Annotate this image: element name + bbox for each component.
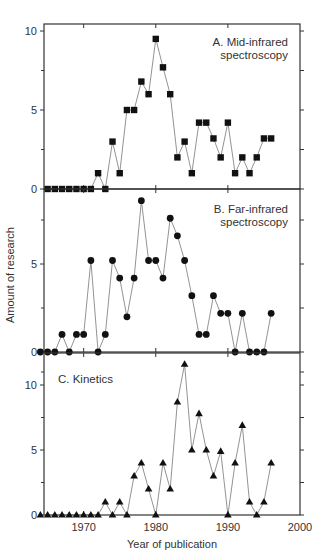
data-point-circle (188, 292, 195, 299)
data-point-square (239, 154, 245, 160)
panel-title: spectroscopy (220, 49, 288, 61)
panel-title: A. Mid-infrared (213, 36, 288, 48)
data-point-circle (124, 313, 131, 320)
data-point-circle (80, 331, 87, 338)
data-point-circle (224, 310, 231, 317)
data-point-circle (66, 349, 73, 356)
data-point-square (217, 154, 223, 160)
data-point-circle (232, 349, 239, 356)
data-point-square (196, 119, 202, 125)
data-point-triangle (231, 459, 239, 466)
x-tick-label: 1970 (71, 521, 95, 533)
data-point-circle (131, 275, 138, 282)
series-line (48, 39, 272, 189)
data-point-circle (196, 331, 203, 338)
data-point-triangle (181, 360, 189, 367)
data-point-square (210, 135, 216, 141)
data-point-triangle (224, 511, 232, 518)
data-point-triangle (145, 485, 153, 492)
data-point-square (160, 64, 166, 70)
data-point-circle (37, 349, 44, 356)
data-point-triangle (101, 498, 109, 505)
x-tick-label: 1990 (216, 521, 240, 533)
data-point-square (117, 170, 123, 176)
data-point-square (225, 119, 231, 125)
data-point-square (174, 154, 180, 160)
y-tick-label: 10 (25, 25, 37, 37)
data-point-circle (102, 331, 109, 338)
data-point-triangle (44, 511, 52, 518)
panel-title: spectroscopy (220, 216, 288, 228)
data-point-triangle (109, 511, 117, 518)
data-point-triangle (37, 511, 45, 518)
data-point-circle (138, 197, 145, 204)
data-point-triangle (58, 511, 66, 518)
data-point-square (246, 170, 252, 176)
data-point-square (124, 107, 130, 113)
data-point-square (181, 138, 187, 144)
data-point-square (167, 91, 173, 97)
data-point-triangle (51, 511, 59, 518)
data-point-triangle (94, 511, 102, 518)
y-tick-label: 0 (31, 346, 37, 358)
data-point-circle (217, 310, 224, 317)
x-axis-label: Year of publication (127, 538, 217, 550)
data-point-square (153, 36, 159, 42)
data-point-square (261, 135, 267, 141)
data-point-circle (160, 275, 167, 282)
data-point-triangle (174, 398, 182, 405)
data-point-triangle (73, 511, 81, 518)
data-point-circle (203, 331, 210, 338)
data-point-circle (109, 257, 116, 264)
data-point-circle (95, 349, 102, 356)
y-tick-label: 10 (25, 379, 37, 391)
data-point-square (268, 135, 274, 141)
data-point-circle (152, 257, 159, 264)
data-point-triangle (166, 485, 174, 492)
data-point-circle (253, 349, 260, 356)
data-point-triangle (239, 421, 247, 428)
x-tick-label: 1980 (144, 521, 168, 533)
series-line (40, 364, 271, 515)
data-point-triangle (210, 472, 218, 479)
y-axis-label: Amount of research (4, 227, 16, 323)
data-point-triangle (253, 511, 261, 518)
data-point-triangle (116, 498, 124, 505)
data-point-circle (181, 257, 188, 264)
data-point-circle (145, 257, 152, 264)
data-point-square (138, 78, 144, 84)
data-point-circle (87, 257, 94, 264)
data-point-triangle (65, 511, 73, 518)
panel-c-kinetics: 0510C. Kinetics (25, 353, 304, 521)
data-point-circle (210, 292, 217, 299)
panel-title: B. Far-infrared (214, 203, 288, 215)
data-point-triangle (217, 447, 225, 454)
data-point-circle (268, 310, 275, 317)
panel-a-mid-infrared: 0510A. Mid-infraredspectroscopy (25, 24, 304, 195)
data-point-circle (116, 275, 123, 282)
y-tick-label: 5 (31, 444, 37, 456)
panel-title: C. Kinetics (58, 373, 113, 385)
data-point-triangle (138, 459, 146, 466)
data-point-square (254, 154, 260, 160)
data-point-circle (246, 349, 253, 356)
data-point-triangle (267, 459, 275, 466)
data-point-triangle (80, 511, 88, 518)
data-point-triangle (202, 446, 210, 453)
data-point-triangle (130, 472, 138, 479)
figure: 0510A. Mid-infraredspectroscopy 05B. Far… (0, 0, 316, 560)
y-tick-label: 5 (31, 258, 37, 270)
data-point-circle (167, 215, 174, 222)
data-point-square (203, 119, 209, 125)
data-point-triangle (246, 498, 254, 505)
panel-b-far-infrared: 05B. Far-infraredspectroscopy (31, 189, 304, 358)
data-point-circle (261, 349, 268, 356)
y-tick-label: 0 (31, 509, 37, 521)
data-point-triangle (152, 511, 160, 518)
data-point-triangle (123, 511, 131, 518)
data-point-square (189, 170, 195, 176)
data-point-circle (59, 331, 66, 338)
y-tick-label: 5 (31, 104, 37, 116)
data-point-square (109, 138, 115, 144)
data-point-square (95, 170, 101, 176)
